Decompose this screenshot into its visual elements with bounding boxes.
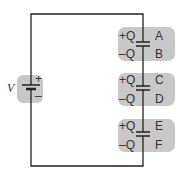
cap2-bottom-charge: –Q <box>119 92 135 106</box>
cap1-top-charge: +Q <box>119 29 135 43</box>
cap3-top-plate: E <box>155 119 163 133</box>
battery-minus: – <box>35 89 42 103</box>
cap2-top-charge: +Q <box>119 73 135 87</box>
cap1-top-plate: A <box>155 29 163 43</box>
cap3-top-charge: +Q <box>119 119 135 133</box>
cap3-bottom-charge: –Q <box>119 138 135 152</box>
circuit-diagram: + – V +Q –Q A B +Q –Q C D +Q –Q E F <box>0 0 178 177</box>
cap2-top-plate: C <box>155 73 164 87</box>
battery-plus: + <box>35 72 42 86</box>
cap3-bottom-plate: F <box>155 138 162 152</box>
cap1-bottom-plate: B <box>155 47 163 61</box>
cap1-bottom-charge: –Q <box>119 47 135 61</box>
battery-voltage-label: V <box>7 81 16 95</box>
cap2-bottom-plate: D <box>155 92 164 106</box>
